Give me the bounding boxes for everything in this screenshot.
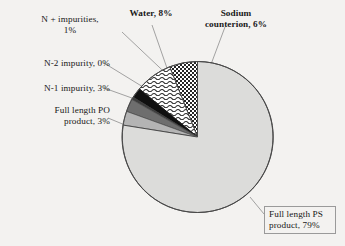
pie-label-full-length-ps-product: Full length PS product, 79% [264, 206, 336, 234]
pie-chart-figure: N + impurities, 1% Water, 8% Sodium coun… [0, 0, 345, 246]
pie-label-sodium-counterion: Sodium counterion, 6% [186, 8, 286, 30]
leader-line-ps [250, 197, 264, 214]
pie-label-full-length-po-product: Full length PO product, 3% [10, 105, 110, 127]
pie-label-water: Water, 8% [112, 8, 190, 19]
pie-slices [122, 61, 273, 212]
pie-label-n-1-impurity: N-1 impurity, 3% [4, 83, 110, 94]
pie-label-n-2-impurity: N-2 impurity, 0% [4, 58, 110, 69]
pie-label-n-plus-impurities: N + impurities, 1% [18, 14, 122, 36]
